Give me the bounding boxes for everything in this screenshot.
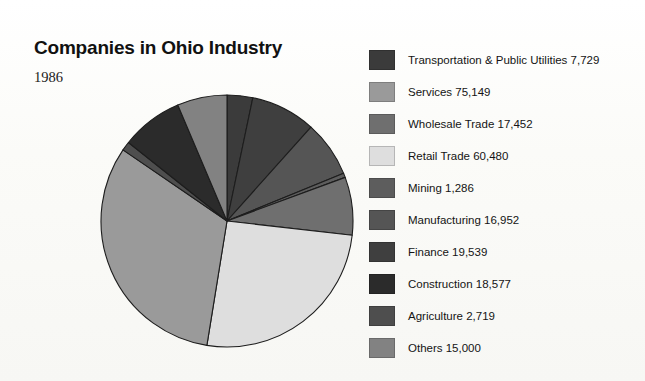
legend-item-retail-trade[interactable]: Retail Trade 60,480	[369, 140, 641, 172]
legend-swatch-wholesale-trade	[369, 114, 395, 134]
legend-swatch-services	[369, 82, 395, 102]
pie-chart-svg	[98, 92, 358, 352]
page-title: Companies in Ohio Industry	[34, 37, 364, 59]
legend-swatch-others	[369, 338, 395, 358]
legend-label-finance: Finance 19,539	[408, 245, 487, 259]
pie-slice-retail-trade[interactable]	[207, 221, 352, 347]
title-block: Companies in Ohio Industry 1986	[34, 37, 364, 85]
pie-chart-area	[98, 92, 358, 352]
chart-legend: Transportation & Public Utilities 7,729S…	[369, 44, 641, 364]
legend-swatch-mining	[369, 178, 395, 198]
legend-label-services: Services 75,149	[408, 85, 490, 99]
legend-item-finance[interactable]: Finance 19,539	[369, 236, 641, 268]
legend-label-transportation-public-utilities: Transportation & Public Utilities 7,729	[408, 53, 599, 67]
legend-item-agriculture[interactable]: Agriculture 2,719	[369, 300, 641, 332]
legend-label-agriculture: Agriculture 2,719	[408, 309, 495, 323]
legend-item-wholesale-trade[interactable]: Wholesale Trade 17,452	[369, 108, 641, 140]
legend-item-manufacturing[interactable]: Manufacturing 16,952	[369, 204, 641, 236]
legend-item-transportation-public-utilities[interactable]: Transportation & Public Utilities 7,729	[369, 44, 641, 76]
pie-slice-group	[101, 95, 353, 347]
legend-item-services[interactable]: Services 75,149	[369, 76, 641, 108]
legend-swatch-retail-trade	[369, 146, 395, 166]
legend-item-others[interactable]: Others 15,000	[369, 332, 641, 364]
legend-label-mining: Mining 1,286	[408, 181, 474, 195]
legend-label-wholesale-trade: Wholesale Trade 17,452	[408, 117, 533, 131]
legend-label-manufacturing: Manufacturing 16,952	[408, 213, 519, 227]
legend-label-retail-trade: Retail Trade 60,480	[408, 149, 508, 163]
legend-item-construction[interactable]: Construction 18,577	[369, 268, 641, 300]
legend-label-construction: Construction 18,577	[408, 277, 511, 291]
legend-swatch-finance	[369, 242, 395, 262]
legend-item-mining[interactable]: Mining 1,286	[369, 172, 641, 204]
legend-label-others: Others 15,000	[408, 341, 481, 355]
legend-swatch-manufacturing	[369, 210, 395, 230]
chart-subtitle-year: 1986	[34, 69, 364, 85]
legend-swatch-agriculture	[369, 306, 395, 326]
legend-swatch-transportation-public-utilities	[369, 50, 395, 70]
pie-chart-figure: Companies in Ohio Industry 1986 Transpor…	[0, 0, 645, 381]
legend-swatch-construction	[369, 274, 395, 294]
